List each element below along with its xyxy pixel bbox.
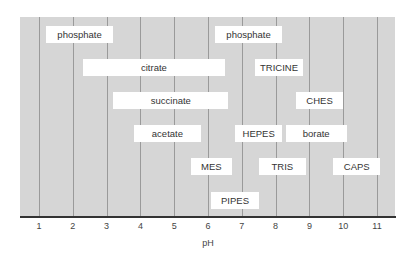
x-tick-label: 3	[104, 221, 109, 231]
gridline-ph-5	[174, 17, 175, 216]
buffer-range-bar-tricine: TRICINE	[255, 59, 302, 76]
x-tick-label: 9	[307, 221, 312, 231]
gridline-ph-9	[309, 17, 310, 216]
buffer-range-bar-citrate: citrate	[83, 59, 225, 76]
buffer-range-bar-caps: CAPS	[333, 158, 380, 175]
gridline-ph-4	[140, 17, 141, 216]
buffer-range-bar-acetate: acetate	[134, 125, 202, 142]
gridline-ph-8	[276, 17, 277, 216]
x-tick-label: 1	[36, 221, 41, 231]
x-tick-label: 8	[273, 221, 278, 231]
x-tick-label: 5	[172, 221, 177, 231]
x-tick-label: 6	[205, 221, 210, 231]
buffer-range-bar-ches: CHES	[296, 92, 343, 109]
x-axis-line	[20, 216, 396, 218]
buffer-range-bar-phosphate: phosphate	[215, 26, 283, 43]
x-tick-label: 2	[70, 221, 75, 231]
x-axis-label: pH	[202, 238, 214, 248]
x-tick-label: 11	[372, 221, 381, 231]
gridline-ph-11	[377, 17, 378, 216]
buffer-range-bar-hepes: HEPES	[235, 125, 282, 142]
x-tick-label: 7	[239, 221, 244, 231]
buffer-range-bar-phosphate: phosphate	[46, 26, 114, 43]
gridline-ph-1	[39, 17, 40, 216]
x-tick-label: 4	[138, 221, 143, 231]
buffer-range-bar-pipes: PIPES	[211, 192, 258, 209]
buffer-range-bar-tris: TRIS	[259, 158, 306, 175]
x-tick-label: 10	[338, 221, 348, 231]
gridline-ph-2	[73, 17, 74, 216]
gridline-ph-10	[343, 17, 344, 216]
gridline-ph-6	[208, 17, 209, 216]
buffer-range-bar-succinate: succinate	[113, 92, 228, 109]
gridline-ph-3	[107, 17, 108, 216]
gridline-ph-7	[242, 17, 243, 216]
plot-area: phosphatephosphatecitrateTRICINEsuccinat…	[20, 17, 395, 216]
buffer-range-bar-mes: MES	[191, 158, 232, 175]
buffer-range-bar-borate: borate	[286, 125, 347, 142]
